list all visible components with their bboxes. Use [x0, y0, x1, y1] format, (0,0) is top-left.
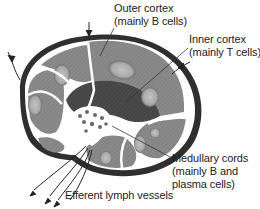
- inner-cortex-label: Inner cortex (mainly T cells): [189, 33, 260, 59]
- lymph-node-diagram: Outer cortex (mainly B cells) Inner cort…: [0, 0, 260, 209]
- medullary-cords-label: Medullary cords (mainly B and plasma cel…: [172, 152, 248, 191]
- outer-cortex-label: Outer cortex (mainly B cells): [114, 2, 187, 28]
- efferent-lymph-vessels-label: Efferent lymph vessels: [65, 189, 173, 202]
